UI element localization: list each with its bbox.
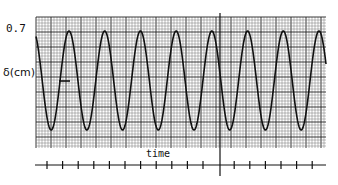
y-tick-label: 0.7 (6, 22, 26, 35)
x-axis-label: time (146, 148, 170, 159)
displacement-wave (36, 31, 326, 130)
y-axis-label: δ(cm) (3, 66, 35, 79)
graph-paper-grid (36, 17, 326, 148)
